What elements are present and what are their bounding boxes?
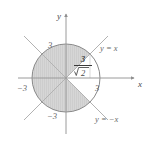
- label-line-y-equals-x: y = x: [99, 43, 118, 53]
- label-line-y-equals-minus-x: y = −x: [94, 114, 118, 124]
- math-figure-canvas: x y 3 −3 3 −3 3 2 y = x y = −x: [0, 0, 150, 145]
- y-axis-label: y: [56, 11, 61, 21]
- coordinate-plane-diagram: x y 3 −3 3 −3 3 2 y = x y = −x: [0, 0, 150, 145]
- x-tick-label-positive: 3: [94, 83, 99, 93]
- x-tick-label-negative: −3: [17, 83, 27, 93]
- y-tick-label-positive: 3: [47, 40, 52, 50]
- fraction-numerator: 3: [80, 54, 86, 64]
- x-axis-label: x: [137, 79, 142, 89]
- y-tick-label-negative: −3: [47, 111, 57, 121]
